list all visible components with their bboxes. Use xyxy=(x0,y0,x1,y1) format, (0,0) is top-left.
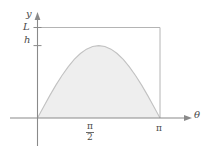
x-tick-label-pi-over-2: π 2 xyxy=(86,122,94,143)
fraction-denominator: 2 xyxy=(86,133,94,142)
shaded-area-sine-fill xyxy=(38,46,161,118)
fraction-numerator: π xyxy=(86,122,94,131)
x-axis-label: θ xyxy=(194,110,200,120)
fraction-pi-over-2: π 2 xyxy=(86,122,94,143)
y-axis-label: y xyxy=(26,9,32,19)
y-tick-label-h: h xyxy=(24,35,30,45)
y-axis-arrowhead-icon xyxy=(35,12,41,20)
x-tick-label-pi: π xyxy=(156,124,162,133)
sine-arch-plot xyxy=(0,0,207,153)
figure-container: y θ L h π 2 π xyxy=(0,0,207,153)
x-axis-arrowhead-icon xyxy=(184,115,192,121)
y-tick-label-L: L xyxy=(23,22,30,32)
